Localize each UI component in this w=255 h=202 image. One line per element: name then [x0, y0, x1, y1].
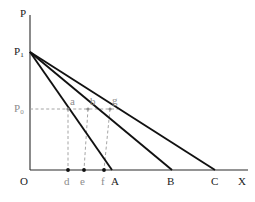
point-label-a: a	[70, 96, 75, 107]
tick-label-d: d	[64, 176, 70, 187]
y-axis-label: P	[20, 8, 26, 19]
point-a-dot	[66, 107, 69, 110]
x-axis-label: X	[238, 176, 246, 187]
origin-label: O	[20, 176, 28, 187]
point-label-g: g	[112, 95, 118, 106]
price-label-p1-sub: 1	[20, 51, 24, 59]
tick-label-e: e	[80, 176, 85, 187]
price-label-p1: P1	[14, 46, 24, 57]
intercept-label-b: B	[167, 176, 174, 187]
diagram-svg	[0, 0, 255, 202]
point-b-dot	[86, 107, 89, 110]
dashed-drop-e	[84, 109, 88, 170]
intercept-label-a: A	[111, 176, 119, 187]
tick-f-dot	[102, 168, 106, 172]
tick-e-dot	[82, 168, 86, 172]
point-label-b: b	[90, 96, 96, 107]
price-label-p0-sub: 0	[20, 108, 24, 116]
demand-line-b	[30, 52, 172, 170]
intercept-label-c: C	[211, 176, 218, 187]
tick-label-f: f	[101, 176, 105, 187]
price-label-p0: P0	[14, 103, 24, 114]
figure-canvas: P X O P1 P0 a b g d e f A B C	[0, 0, 255, 202]
point-g-dot	[108, 107, 111, 110]
tick-d-dot	[66, 168, 70, 172]
demand-line-c	[30, 52, 215, 170]
